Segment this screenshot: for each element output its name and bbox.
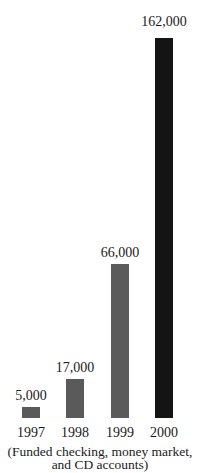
bar-1998 — [66, 379, 84, 418]
x-tick-1999: 1999 — [98, 426, 142, 440]
bar-2000 — [155, 38, 173, 418]
bar-1997 — [22, 407, 40, 418]
x-tick-1998: 1998 — [53, 426, 97, 440]
x-tick-2000: 2000 — [142, 426, 186, 440]
value-label-2000: 162,000 — [129, 15, 199, 29]
bar-chart: 5,000 17,000 66,000 162,000 1997 1998 19… — [0, 0, 200, 473]
bar-1999 — [111, 264, 129, 418]
value-label-1997: 5,000 — [0, 389, 66, 403]
chart-caption: (Funded checking, money market, and CD a… — [0, 445, 200, 471]
value-label-1998: 17,000 — [40, 361, 110, 375]
caption-line-2: and CD accounts) — [0, 458, 200, 471]
value-label-1999: 66,000 — [85, 246, 155, 260]
x-tick-1997: 1997 — [9, 426, 53, 440]
